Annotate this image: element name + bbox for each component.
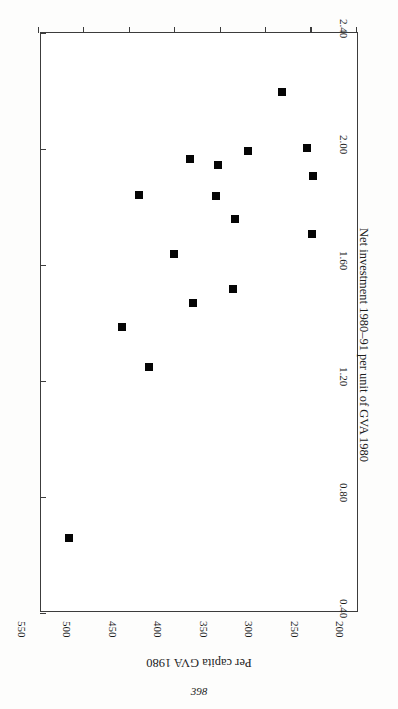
data-point bbox=[145, 363, 153, 371]
y-axis-tick bbox=[265, 27, 266, 33]
data-point bbox=[214, 161, 222, 169]
y-axis-tick bbox=[174, 27, 175, 33]
y-axis-tick bbox=[356, 27, 357, 33]
plot-frame bbox=[40, 32, 358, 612]
y-axis-tick-label: 300 bbox=[243, 621, 255, 638]
data-point bbox=[189, 299, 197, 307]
y-axis-tick-label: 450 bbox=[107, 621, 119, 638]
data-point bbox=[212, 192, 220, 200]
y-axis-title: Per capita GVA 1980 bbox=[119, 655, 279, 670]
y-axis-tick-label: 200 bbox=[334, 621, 346, 638]
y-axis-tick bbox=[38, 27, 39, 33]
y-axis-tick bbox=[83, 27, 84, 33]
x-axis-tick-label: 0.40 bbox=[338, 599, 350, 618]
x-axis-tick bbox=[40, 33, 46, 34]
data-point bbox=[135, 191, 143, 199]
data-point bbox=[308, 230, 316, 238]
x-axis-tick-label: 1.20 bbox=[338, 367, 350, 386]
data-point bbox=[65, 534, 73, 542]
x-axis-tick-label: 1.60 bbox=[338, 251, 350, 270]
y-axis-tick-label: 500 bbox=[61, 621, 73, 638]
x-axis-tick bbox=[40, 613, 46, 614]
x-axis-tick bbox=[40, 381, 46, 382]
figure-rotated-container bbox=[40, 32, 358, 612]
y-axis-tick-label: 550 bbox=[16, 621, 28, 638]
data-point bbox=[170, 250, 178, 258]
x-axis-tick-label: 0.80 bbox=[338, 483, 350, 502]
y-axis-tick bbox=[129, 27, 130, 33]
y-axis-tick bbox=[310, 27, 311, 33]
data-point bbox=[309, 172, 317, 180]
data-point bbox=[229, 285, 237, 293]
x-axis-tick-label: 2.00 bbox=[338, 135, 350, 154]
data-point bbox=[303, 144, 311, 152]
y-axis-tick-label: 250 bbox=[289, 621, 301, 638]
x-axis-tick bbox=[40, 149, 46, 150]
y-axis-tick-label: 400 bbox=[152, 621, 164, 638]
data-point bbox=[244, 147, 252, 155]
y-axis-tick bbox=[220, 27, 221, 33]
x-axis-tick bbox=[40, 265, 46, 266]
data-point bbox=[118, 323, 126, 331]
data-point bbox=[231, 215, 239, 223]
x-axis-title: Net investment 1980–91 per unit of GVA 1… bbox=[356, 228, 371, 462]
x-axis-tick bbox=[40, 497, 46, 498]
page-number: 398 bbox=[0, 685, 398, 697]
scanned-page-background: 0.400.801.201.602.002.40 200250300350400… bbox=[0, 0, 398, 709]
x-axis-tick-label: 2.40 bbox=[338, 19, 350, 38]
y-axis-tick-label: 350 bbox=[198, 621, 210, 638]
data-point bbox=[186, 155, 194, 163]
data-point bbox=[278, 88, 286, 96]
